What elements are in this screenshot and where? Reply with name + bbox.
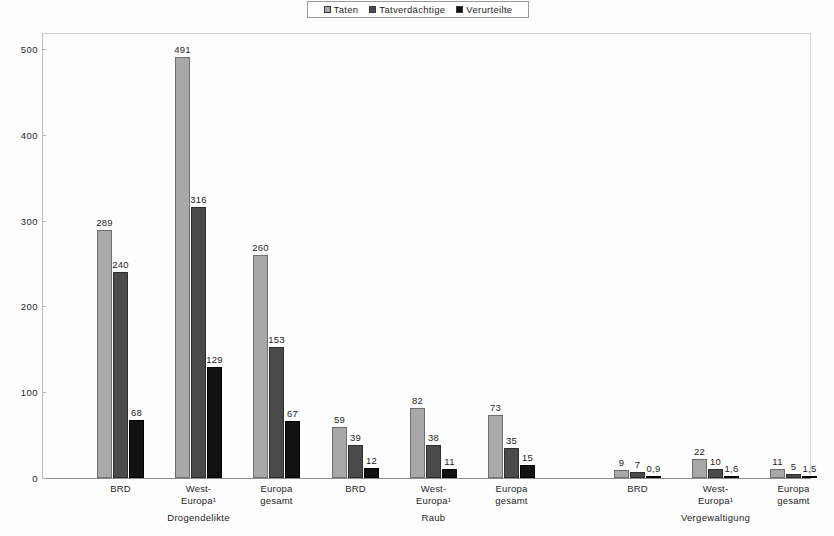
region-label-line: Europa¹ — [402, 495, 466, 507]
legend-entry-1[interactable]: Tatverdächtige — [369, 5, 445, 15]
region-label-line: BRD — [89, 483, 153, 495]
square-swatch — [456, 6, 463, 13]
bar-value-label: 35 — [498, 435, 526, 446]
region-label-line: West- — [402, 483, 466, 495]
legend-label: Taten — [334, 5, 359, 15]
bar-value-label: 0,9 — [640, 463, 668, 474]
y-axis-tick-mark — [42, 306, 46, 307]
y-axis-tick-mark — [42, 221, 46, 222]
x-axis-group-label: Raub — [334, 512, 534, 523]
x-axis-region-label: BRD — [606, 483, 670, 495]
bar-value-label: 68 — [123, 407, 151, 418]
bar-value-label: 82 — [404, 395, 432, 406]
bar-value-label: 38 — [420, 432, 448, 443]
x-axis-baseline — [42, 478, 811, 479]
y-axis-tick-mark — [42, 478, 46, 479]
bar-value-label: 11 — [436, 456, 464, 467]
x-axis-group-label: Vergewaltigung — [616, 512, 816, 523]
y-axis-tick-label: 500 — [0, 44, 38, 55]
bar-value-label: 15 — [514, 452, 542, 463]
bar-value-label: 39 — [342, 432, 370, 443]
x-axis-region-label: West-Europa¹ — [684, 483, 748, 506]
legend-label: Tatverdächtige — [379, 5, 445, 15]
y-axis-tick-label: 0 — [0, 473, 38, 484]
bar-raub-2[interactable] — [364, 468, 379, 478]
plot-area-frame — [42, 33, 811, 479]
y-axis-tick-mark — [42, 392, 46, 393]
legend-entry-2[interactable]: Verurteilte — [456, 5, 512, 15]
bar-raub-0[interactable] — [488, 415, 503, 478]
bar-vergewaltigung-2[interactable] — [802, 476, 817, 478]
x-axis-group-label: Drogendelikte — [99, 512, 299, 523]
y-axis-tick-label: 100 — [0, 387, 38, 398]
bar-value-label: 67 — [279, 408, 307, 419]
bar-value-label: 316 — [185, 194, 213, 205]
region-label-line: Europa — [245, 483, 309, 495]
region-label-line: BRD — [606, 483, 670, 495]
region-label-line: Europa — [480, 483, 544, 495]
y-axis-tick-label: 300 — [0, 215, 38, 226]
bar-value-label: 153 — [263, 334, 291, 345]
y-axis-tick-label: 400 — [0, 129, 38, 140]
chart-page: TatenTatverdächtigeVerurteilte 010020030… — [0, 0, 834, 536]
bar-value-label: 12 — [358, 455, 386, 466]
chart-legend: TatenTatverdächtigeVerurteilte — [307, 1, 529, 18]
bar-drogendelikte-2[interactable] — [129, 420, 144, 478]
square-swatch — [369, 6, 376, 13]
region-label-line: gesamt — [480, 495, 544, 507]
bar-vergewaltigung-2[interactable] — [646, 476, 661, 478]
y-axis-tick-mark — [42, 49, 46, 50]
bar-drogendelikte-2[interactable] — [285, 421, 300, 478]
region-label-line: BRD — [324, 483, 388, 495]
region-label-line: Europa¹ — [167, 495, 231, 507]
region-label-line: Europa¹ — [684, 495, 748, 507]
bar-value-label: 73 — [482, 402, 510, 413]
bar-drogendelikte-1[interactable] — [113, 272, 128, 478]
bar-value-label: 240 — [107, 259, 135, 270]
legend-label: Verurteilte — [466, 5, 512, 15]
bar-value-label: 491 — [169, 44, 197, 55]
bar-value-label: 59 — [326, 414, 354, 425]
bar-value-label: 1,6 — [718, 463, 746, 474]
bar-drogendelikte-0[interactable] — [253, 255, 268, 478]
x-axis-region-label: Europagesamt — [245, 483, 309, 506]
bar-raub-2[interactable] — [442, 469, 457, 478]
square-swatch — [324, 6, 331, 13]
y-axis-tick-mark — [42, 135, 46, 136]
x-axis-region-label: Europagesamt — [480, 483, 544, 506]
bar-value-label: 289 — [91, 217, 119, 228]
bar-value-label: 1,5 — [796, 463, 824, 474]
region-label-line: gesamt — [762, 495, 826, 507]
region-label-line: gesamt — [245, 495, 309, 507]
bar-vergewaltigung-2[interactable] — [724, 476, 739, 478]
region-label-line: Europa — [762, 483, 826, 495]
bar-vergewaltigung-1[interactable] — [786, 474, 801, 478]
x-axis-region-label: West-Europa¹ — [167, 483, 231, 506]
legend-entry-0[interactable]: Taten — [324, 5, 359, 15]
bar-value-label: 260 — [247, 242, 275, 253]
bar-drogendelikte-2[interactable] — [207, 367, 222, 478]
x-axis-region-label: BRD — [324, 483, 388, 495]
bar-drogendelikte-1[interactable] — [191, 207, 206, 478]
bar-drogendelikte-0[interactable] — [175, 57, 190, 478]
region-label-line: West- — [167, 483, 231, 495]
x-axis-region-label: Europagesamt — [762, 483, 826, 506]
x-axis-region-label: BRD — [89, 483, 153, 495]
y-axis-line — [42, 33, 43, 479]
region-label-line: West- — [684, 483, 748, 495]
bar-vergewaltigung-0[interactable] — [614, 470, 629, 478]
x-axis-region-label: West-Europa¹ — [402, 483, 466, 506]
bar-value-label: 129 — [201, 354, 229, 365]
bar-raub-2[interactable] — [520, 465, 535, 478]
y-axis-tick-label: 200 — [0, 301, 38, 312]
